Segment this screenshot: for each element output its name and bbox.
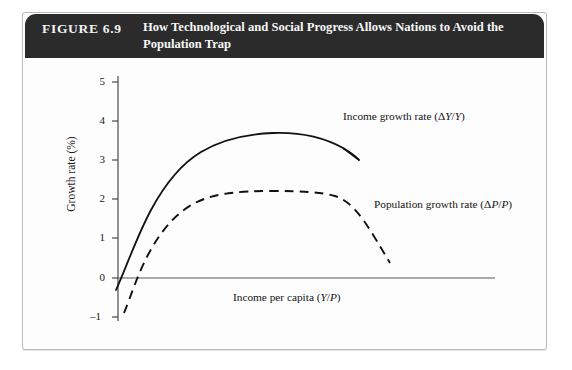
y-tick-label-3: 3 bbox=[83, 153, 105, 165]
income-label-prefix: Income growth rate (Δ bbox=[343, 110, 445, 122]
y-tick-label-4: 4 bbox=[83, 114, 105, 126]
y-axis-label: Growth rate (%) bbox=[65, 109, 77, 239]
population-label-suffix: ) bbox=[508, 198, 512, 210]
population-growth-rate-label: Population growth rate (ΔP/P) bbox=[374, 198, 512, 210]
y-tick-label-neg1: –1 bbox=[79, 310, 101, 322]
income-label-leader bbox=[343, 148, 359, 160]
x-axis-label-prefix: Income per capita ( bbox=[233, 291, 321, 303]
figure-screenshot: FIGURE 6.9 How Technological and Social … bbox=[0, 0, 572, 370]
plot-area: Growth rate (%) 5 4 3 2 1 0 –1 Income gr… bbox=[25, 58, 544, 348]
y-tick-label-1: 1 bbox=[83, 231, 105, 243]
x-axis-label: Income per capita (Y/P) bbox=[233, 291, 341, 303]
income-growth-rate-curve bbox=[116, 133, 359, 290]
y-tick-label-0: 0 bbox=[83, 271, 105, 283]
population-label-prefix: Population growth rate (Δ bbox=[374, 198, 491, 210]
figure-number: FIGURE 6.9 bbox=[42, 21, 122, 37]
income-label-suffix: ) bbox=[461, 110, 465, 122]
x-axis-label-suffix: ) bbox=[337, 291, 341, 303]
income-growth-rate-label: Income growth rate (ΔY/Y) bbox=[343, 110, 465, 122]
y-tick-label-5: 5 bbox=[83, 75, 105, 87]
figure-title-banner: FIGURE 6.9 How Technological and Social … bbox=[25, 14, 544, 58]
y-axis-ticks bbox=[112, 82, 118, 317]
x-axis-label-p: P bbox=[330, 291, 337, 303]
y-tick-label-2: 2 bbox=[83, 192, 105, 204]
figure-title: How Technological and Social Progress Al… bbox=[143, 19, 535, 53]
